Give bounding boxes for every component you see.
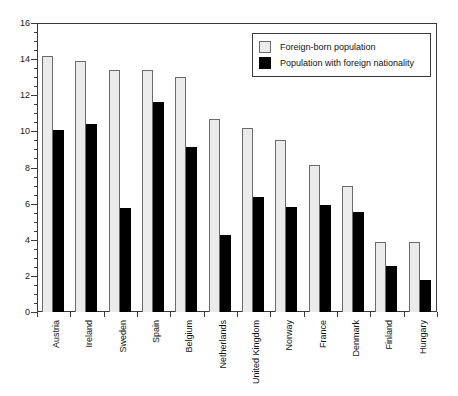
x-axis-category-label: France (319, 320, 328, 348)
bar (186, 147, 197, 312)
x-axis-category-label: Norway (285, 320, 294, 351)
x-axis-category-label: Denmark (352, 320, 361, 357)
x-axis-category-label: Sweden (119, 320, 128, 353)
x-tick (437, 312, 438, 317)
bar (342, 186, 353, 312)
bar (209, 119, 220, 312)
x-tick (304, 312, 305, 317)
x-axis-category-label: Netherlands (219, 320, 228, 369)
x-axis-category-label: Ireland (85, 320, 94, 348)
bar (309, 165, 320, 312)
bar (409, 242, 420, 312)
x-tick (170, 312, 171, 317)
y-tick-label: 16 (20, 19, 30, 28)
y-tick-label: 6 (25, 200, 30, 209)
legend-swatch-light-icon (259, 41, 271, 53)
y-tick-label: 10 (20, 127, 30, 136)
chart-legend: Foreign-born population Population with … (252, 33, 431, 77)
bar (275, 140, 286, 312)
bar (153, 102, 164, 312)
x-axis-category-label: Hungary (419, 320, 428, 354)
y-tick-label: 2 (25, 272, 30, 281)
x-tick (337, 312, 338, 317)
x-tick (404, 312, 405, 317)
x-tick (104, 312, 105, 317)
legend-label: Foreign-born population (280, 42, 376, 52)
x-axis-category-label: United Kingdom (252, 320, 261, 384)
bar (253, 197, 264, 312)
x-tick (70, 312, 71, 317)
bar (242, 128, 253, 312)
x-axis-category-label: Austria (52, 320, 61, 348)
x-axis-category-label: Finland (385, 320, 394, 350)
y-tick-label: 12 (20, 91, 30, 100)
bar (53, 130, 64, 312)
legend-item-foreign-nationality: Population with foreign nationality (259, 55, 424, 71)
x-axis-category-label: Spain (152, 320, 161, 343)
legend-label: Population with foreign nationality (280, 58, 414, 68)
legend-item-foreign-born: Foreign-born population (259, 39, 424, 55)
x-tick (137, 312, 138, 317)
bar (42, 56, 53, 312)
x-tick (270, 312, 271, 317)
bar (142, 70, 153, 312)
bar (175, 77, 186, 312)
x-axis-category-label: Belgium (185, 320, 194, 353)
bar (75, 61, 86, 312)
x-tick (237, 312, 238, 317)
y-tick-label: 8 (25, 164, 30, 173)
bar (86, 124, 97, 312)
x-tick (370, 312, 371, 317)
bar (420, 280, 431, 312)
y-tick-label: 4 (25, 236, 30, 245)
bar (120, 208, 131, 312)
bar (109, 70, 120, 312)
x-tick (37, 312, 38, 317)
chart-figure: 0246810121416 Foreign-born population Po… (0, 0, 458, 396)
bar (220, 235, 231, 312)
bar (386, 266, 397, 312)
bar (320, 205, 331, 312)
y-tick-label: 14 (20, 55, 30, 64)
legend-swatch-dark-icon (259, 57, 271, 69)
x-tick (204, 312, 205, 317)
bar (353, 212, 364, 312)
y-tick-label: 0 (25, 308, 30, 317)
bar (375, 242, 386, 312)
bar (286, 207, 297, 312)
